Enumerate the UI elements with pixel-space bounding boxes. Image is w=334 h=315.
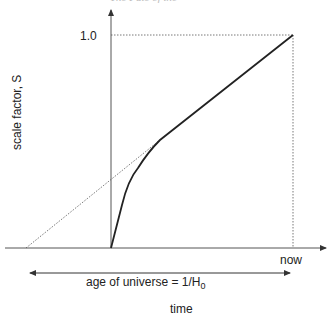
extrapolation-line [26, 140, 160, 248]
scale-factor-curve [111, 35, 293, 248]
diagram: The Fate of the 1.0 scale factor, S now … [0, 0, 334, 315]
age-annotation: age of universe = 1/H0 [86, 275, 205, 291]
y-tick-label: 1.0 [80, 29, 97, 43]
y-axis-label: scale factor, S [10, 75, 24, 150]
now-label: now [280, 253, 302, 267]
x-axis-label: time [170, 302, 193, 315]
plot-area [0, 0, 334, 315]
age-subscript: 0 [200, 281, 205, 291]
age-text: age of universe = 1/H [86, 275, 200, 289]
